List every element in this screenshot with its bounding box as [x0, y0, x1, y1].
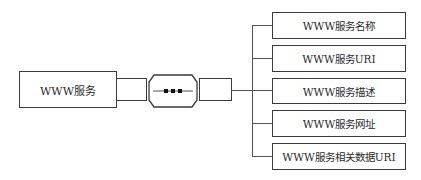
www-service-node: WWW服务 [19, 71, 117, 108]
attribute-label: WWW服务网址 [303, 116, 375, 131]
attribute-label: WWW服务名称 [303, 18, 375, 33]
attribute-label: WWW服务URI [302, 51, 375, 66]
bracket-tick-4 [252, 123, 272, 124]
www-service-label: WWW服务 [40, 82, 96, 98]
right-port-box [199, 78, 232, 101]
bracket-tick-5 [252, 156, 272, 157]
attribute-label: WWW服务描述 [303, 84, 375, 99]
attribute-box-service-description: WWW服务描述 [272, 78, 406, 104]
bracket-tick-2 [252, 58, 272, 59]
ellipsis-octagon-icon [147, 74, 199, 108]
attribute-label: WWW服务相关数据URI [282, 149, 395, 164]
attribute-box-service-url: WWW服务网址 [272, 110, 406, 137]
bracket-vertical-line [252, 25, 253, 157]
attribute-box-service-uri: WWW服务URI [272, 45, 406, 72]
left-port-box [116, 78, 147, 101]
attribute-box-service-name: WWW服务名称 [272, 12, 406, 39]
bracket-tick-1 [252, 25, 272, 26]
attribute-box-related-data-uri: WWW服务相关数据URI [272, 143, 406, 170]
